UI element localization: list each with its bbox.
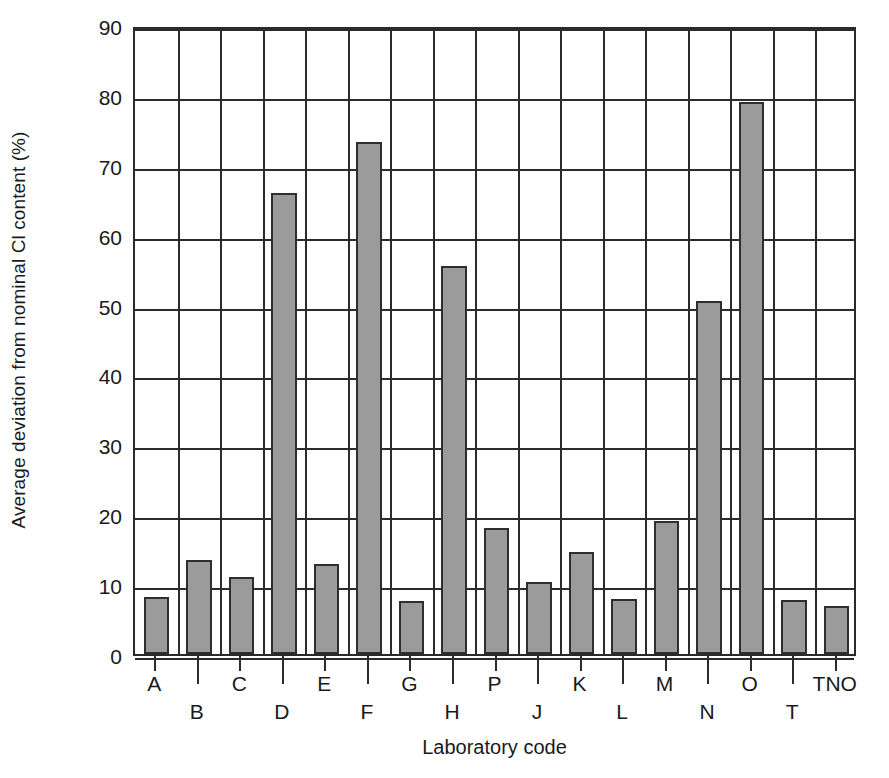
x-axis-tick <box>409 656 411 671</box>
x-axis-tick-label: L <box>616 701 628 722</box>
y-axis-title-text: Average deviation from nominal Cl conten… <box>7 131 29 528</box>
x-axis-tick-label: F <box>360 701 373 722</box>
bar-chart-figure: Average deviation from nominal Cl conten… <box>0 0 889 778</box>
x-axis-tick-label: E <box>317 673 331 694</box>
x-axis-tick-label: H <box>444 701 459 722</box>
bar[interactable] <box>654 521 680 654</box>
bar-slot <box>135 25 178 654</box>
x-axis-tick <box>324 656 326 671</box>
x-axis-tick-label: O <box>742 673 758 694</box>
bar[interactable] <box>739 102 765 654</box>
bar-slot <box>645 25 688 654</box>
y-axis-tick-label: 30 <box>44 436 122 457</box>
y-axis-title: Average deviation from nominal Cl conten… <box>0 0 36 660</box>
bars-layer <box>135 29 854 654</box>
x-axis-tick-label: T <box>786 701 799 722</box>
y-axis-tick-label: 40 <box>44 366 122 387</box>
bar-slot <box>773 25 816 654</box>
bar-slot <box>730 25 773 654</box>
bar[interactable] <box>314 564 340 654</box>
bar[interactable] <box>484 528 510 654</box>
bar-slot <box>348 25 391 654</box>
bar[interactable] <box>611 599 637 654</box>
x-axis-title: Laboratory code <box>133 736 856 759</box>
x-axis-tick-label: TNO <box>813 673 857 694</box>
bar-slot <box>220 25 263 654</box>
x-axis-tick-label: G <box>401 673 417 694</box>
x-axis-tick-label: J <box>532 701 543 722</box>
y-axis-tick-label: 60 <box>44 226 122 247</box>
bar[interactable] <box>144 597 170 654</box>
cropped-caption-remnant <box>0 0 889 10</box>
bar-slot <box>603 25 646 654</box>
bar-slot <box>815 25 858 654</box>
bar-slot <box>178 25 221 654</box>
bar-slot <box>688 25 731 654</box>
y-axis-tick-label: 0 <box>44 646 122 667</box>
x-axis-tick-label: A <box>147 673 161 694</box>
bar[interactable] <box>441 266 467 654</box>
bar-slot <box>560 25 603 654</box>
x-axis-tick-labels: ABCDEFGHPJKLMNOTTNO <box>133 670 856 730</box>
x-axis-tick-label: P <box>487 673 501 694</box>
y-axis-tick-label: 10 <box>44 576 122 597</box>
bar[interactable] <box>399 601 425 654</box>
bar-slot <box>263 25 306 654</box>
bar-slot <box>475 25 518 654</box>
bar[interactable] <box>824 606 850 654</box>
x-axis-tick <box>239 656 241 671</box>
bar-slot <box>390 25 433 654</box>
bar[interactable] <box>229 577 255 654</box>
x-axis-tick-label: C <box>232 673 247 694</box>
plot-area <box>133 27 856 656</box>
x-axis-tick <box>665 656 667 671</box>
bar[interactable] <box>569 552 595 654</box>
x-axis-tick <box>495 656 497 671</box>
x-axis-tick-label: K <box>573 673 587 694</box>
bar[interactable] <box>781 600 807 655</box>
x-axis-tick-label: M <box>656 673 674 694</box>
y-axis-tick-label: 70 <box>44 156 122 177</box>
x-axis-tick-label: B <box>190 701 204 722</box>
bar[interactable] <box>356 142 382 654</box>
y-axis-tick-labels: 0102030405060708090 <box>44 0 122 700</box>
x-axis-tick <box>580 656 582 671</box>
bar[interactable] <box>271 193 297 654</box>
x-axis-tick-label: N <box>700 701 715 722</box>
y-axis-tick-label: 50 <box>44 296 122 317</box>
x-axis-tick <box>835 656 837 671</box>
bar-slot <box>433 25 476 654</box>
bar[interactable] <box>186 560 212 654</box>
bar-slot <box>518 25 561 654</box>
x-axis-tick <box>154 656 156 671</box>
bar-slot <box>305 25 348 654</box>
y-axis-tick-label: 20 <box>44 506 122 527</box>
x-axis-tick <box>750 656 752 671</box>
x-axis-tick-label: D <box>274 701 289 722</box>
bar[interactable] <box>696 301 722 654</box>
y-axis-tick-label: 90 <box>44 17 122 38</box>
y-axis-tick-label: 80 <box>44 86 122 107</box>
bar[interactable] <box>526 582 552 654</box>
